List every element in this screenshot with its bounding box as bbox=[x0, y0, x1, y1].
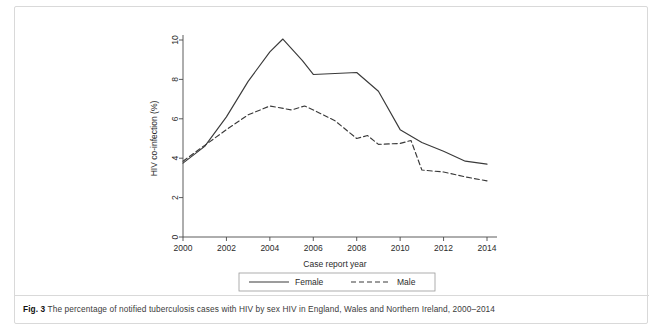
y-tick-label: 2 bbox=[170, 195, 180, 200]
y-tick-label: 8 bbox=[170, 77, 180, 82]
figure-caption-prefix: Fig. 3 bbox=[23, 304, 45, 314]
x-axis-title: Case report year bbox=[303, 259, 366, 269]
legend-label-male[interactable]: Male bbox=[397, 277, 416, 287]
x-tick-label: 2000 bbox=[174, 243, 193, 253]
x-tick-label: 2006 bbox=[304, 243, 323, 253]
series-line-female bbox=[183, 39, 487, 164]
x-tick-label: 2010 bbox=[391, 243, 410, 253]
x-tick-label: 2008 bbox=[347, 243, 366, 253]
chart-series bbox=[183, 39, 487, 181]
chart-axes bbox=[179, 35, 497, 241]
figure-caption: Fig. 3 The percentage of notified tuberc… bbox=[15, 295, 649, 323]
y-axis-title: HIV co-infection (%) bbox=[149, 101, 159, 177]
y-tick-label: 6 bbox=[170, 116, 180, 121]
figure-container: 024681020002002200420062008201020122014C… bbox=[14, 6, 648, 324]
figure-caption-body: The percentage of notified tuberculosis … bbox=[48, 304, 496, 314]
line-chart: 024681020002002200420062008201020122014C… bbox=[15, 7, 649, 297]
y-tick-label: 0 bbox=[170, 234, 180, 239]
x-tick-label: 2012 bbox=[434, 243, 453, 253]
y-tick-label: 10 bbox=[170, 35, 180, 45]
figure-page: 024681020002002200420062008201020122014C… bbox=[0, 0, 664, 332]
chart-plot-area: 024681020002002200420062008201020122014C… bbox=[15, 7, 649, 297]
y-tick-label: 4 bbox=[170, 156, 180, 161]
legend-label-female[interactable]: Female bbox=[295, 277, 324, 287]
x-tick-label: 2002 bbox=[217, 243, 236, 253]
x-tick-label: 2004 bbox=[260, 243, 279, 253]
x-tick-label: 2014 bbox=[478, 243, 497, 253]
series-line-male bbox=[183, 106, 487, 181]
figure-caption-text: Fig. 3 The percentage of notified tuberc… bbox=[23, 304, 495, 315]
chart-legend[interactable]: FemaleMale bbox=[239, 273, 435, 291]
